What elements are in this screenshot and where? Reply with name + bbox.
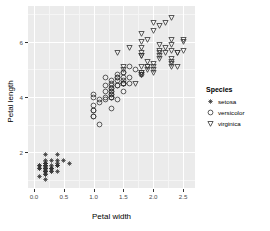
- legend-item-label: versicolor: [218, 109, 244, 116]
- legend-item-virginica[interactable]: virginica: [205, 118, 267, 129]
- data-point-setosa: [48, 165, 55, 172]
- circle-marker: [205, 107, 216, 118]
- data-point-virginica: [144, 36, 151, 43]
- data-point-versicolor: [108, 105, 115, 112]
- legend: Species setosaversicolorvirginica: [205, 86, 267, 129]
- asterisk-marker: [205, 96, 216, 107]
- data-point-virginica: [126, 44, 133, 51]
- data-point-virginica: [120, 63, 127, 70]
- y-tick-label: 6: [6, 38, 23, 45]
- data-point-setosa: [54, 151, 61, 158]
- data-point-virginica: [180, 36, 187, 43]
- y-tick-mark: [25, 152, 28, 153]
- x-tick-label: 2.5: [179, 193, 188, 200]
- data-point-versicolor: [90, 113, 97, 120]
- data-point-virginica: [168, 41, 175, 48]
- data-point-virginica: [156, 55, 163, 62]
- data-point-versicolor: [120, 74, 127, 81]
- legend-title: Species: [205, 86, 267, 93]
- data-point-versicolor: [108, 91, 115, 98]
- grid-line-minor-horizontal: [28, 125, 195, 126]
- data-point-virginica: [168, 14, 175, 21]
- data-point-virginica: [132, 80, 139, 87]
- data-point-setosa: [66, 160, 73, 167]
- x-tick-label: 0.0: [30, 193, 39, 200]
- data-point-versicolor: [114, 77, 121, 84]
- grid-line-major-horizontal: [28, 152, 195, 153]
- data-point-versicolor: [96, 121, 103, 128]
- data-point-virginica: [138, 63, 145, 70]
- data-point-virginica: [150, 60, 157, 67]
- data-point-setosa: [42, 151, 49, 158]
- grid-line-major-vertical: [123, 6, 124, 188]
- x-tick-mark: [183, 189, 184, 192]
- x-axis-title: Petal width: [28, 212, 195, 221]
- x-tick-mark: [34, 189, 35, 192]
- data-point-versicolor: [126, 63, 133, 70]
- y-axis-title: Petal length: [6, 52, 15, 152]
- data-point-virginica: [168, 55, 175, 62]
- legend-item-setosa[interactable]: setosa: [205, 96, 267, 107]
- legend-item-label: virginica: [218, 120, 241, 127]
- data-point-virginica: [138, 52, 145, 59]
- data-point-setosa: [54, 162, 61, 169]
- x-tick-label: 1.5: [119, 193, 128, 200]
- data-point-versicolor: [90, 102, 97, 109]
- x-tick-label: 1.0: [89, 193, 98, 200]
- y-tick-mark: [25, 42, 28, 43]
- x-tick-label: 0.5: [59, 193, 68, 200]
- grid-line-major-vertical: [183, 6, 184, 188]
- data-point-setosa: [42, 165, 49, 172]
- triangle-down-marker: [205, 118, 216, 129]
- x-tick-mark: [123, 189, 124, 192]
- x-tick-mark: [94, 189, 95, 192]
- data-point-virginica: [174, 63, 181, 70]
- data-point-versicolor: [114, 96, 121, 103]
- grid-line-major-vertical: [34, 6, 35, 188]
- legend-item-versicolor[interactable]: versicolor: [205, 107, 267, 118]
- legend-item-label: setosa: [218, 98, 236, 105]
- data-point-virginica: [180, 47, 187, 54]
- data-point-virginica: [114, 49, 121, 56]
- data-point-virginica: [150, 19, 157, 26]
- scatter-plot-figure: 0.00.51.01.52.02.5 246 Petal width Petal…: [0, 0, 270, 231]
- legend-items: setosaversicolorvirginica: [205, 96, 267, 129]
- data-point-virginica: [150, 27, 157, 34]
- data-point-versicolor: [120, 88, 127, 95]
- x-tick-mark: [64, 189, 65, 192]
- x-tick-label: 2.0: [149, 193, 158, 200]
- y-tick-mark: [25, 97, 28, 98]
- data-point-versicolor: [102, 74, 109, 81]
- grid-line-minor-horizontal: [28, 180, 195, 181]
- plot-panel: [28, 6, 195, 188]
- x-tick-mark: [153, 189, 154, 192]
- data-point-virginica: [150, 69, 157, 76]
